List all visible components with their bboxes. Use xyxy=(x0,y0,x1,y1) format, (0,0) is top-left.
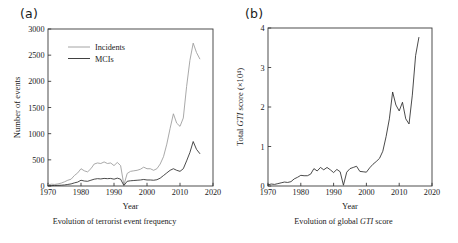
x-tick-label: 2000 xyxy=(358,188,374,197)
x-tick-label: 1980 xyxy=(293,188,309,197)
y-tick-label: 1 xyxy=(260,143,264,152)
y-axis-title: Total GTI score (×10⁴) xyxy=(235,68,245,146)
x-tick-label: 1990 xyxy=(325,188,341,197)
x-tick-label: 2020 xyxy=(424,188,440,197)
panel-a: (a) 197019801990200020102020050010001500… xyxy=(0,0,229,243)
x-axis-title: Year xyxy=(342,201,358,211)
x-axis-title: Year xyxy=(123,201,139,211)
y-tick-label: 2 xyxy=(260,103,264,112)
plot-frame xyxy=(268,28,432,186)
legend-label: Incidents xyxy=(95,43,125,52)
y-tick-label: 0 xyxy=(40,182,44,191)
x-tick-label: 2010 xyxy=(391,188,407,197)
y-tick-label: 3000 xyxy=(28,25,44,34)
y-axis-title: Number of events xyxy=(12,76,22,138)
panel-a-caption: Evolution of terrorist event frequency xyxy=(0,217,229,226)
panel-b: (b) 19701980199020002010202001234YearTot… xyxy=(229,0,458,243)
plot-frame xyxy=(48,29,213,186)
y-tick-label: 3 xyxy=(260,64,264,73)
panel-b-caption-italic: GTI xyxy=(360,217,373,226)
y-tick-label: 500 xyxy=(32,156,44,165)
x-tick-label: 1990 xyxy=(106,188,122,197)
x-tick-label: 2000 xyxy=(139,188,155,197)
y-tick-label: 2000 xyxy=(28,77,44,86)
panel-b-plot: 19701980199020002010202001234YearTotal G… xyxy=(229,0,458,243)
panel-b-caption-suffix: score xyxy=(373,217,392,226)
panel-b-caption-prefix: Evolution of global xyxy=(294,217,360,226)
x-tick-label: 2010 xyxy=(172,188,188,197)
figure-container: (a) 197019801990200020102020050010001500… xyxy=(0,0,458,243)
panel-a-caption-text: Evolution of terrorist event frequency xyxy=(53,217,177,226)
x-tick-label: 1980 xyxy=(73,188,89,197)
panel-a-plot: 1970198019902000201020200500100015002000… xyxy=(0,0,229,243)
y-tick-label: 1500 xyxy=(28,104,44,113)
y-tick-label: 2500 xyxy=(28,51,44,60)
legend-label: MCIs xyxy=(95,55,114,64)
y-tick-label: 0 xyxy=(260,182,264,191)
y-tick-label: 4 xyxy=(260,24,264,33)
panel-b-caption: Evolution of global GTI score xyxy=(229,217,458,226)
x-tick-label: 2020 xyxy=(205,188,221,197)
series-line xyxy=(48,43,200,185)
series-line xyxy=(268,37,419,185)
y-tick-label: 1000 xyxy=(28,130,44,139)
